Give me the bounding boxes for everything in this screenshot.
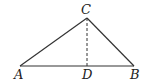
segment-ac [20,18,87,66]
label-b: B [129,67,140,82]
segment-bc [87,18,134,66]
label-a: A [13,67,23,82]
triangle-diagram: C A D B [0,0,144,82]
label-c: C [81,2,91,17]
label-d: D [81,67,93,82]
